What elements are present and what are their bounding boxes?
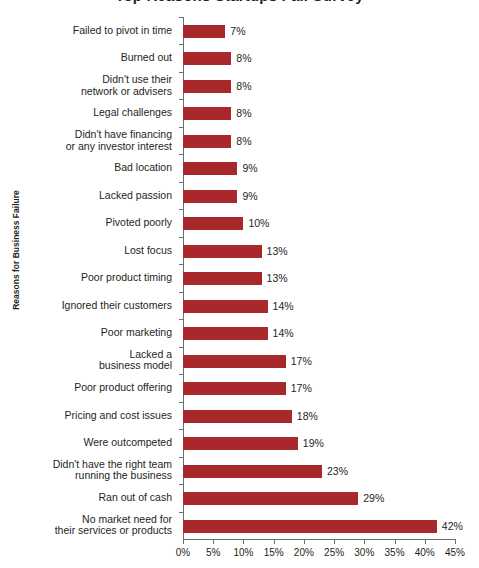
- y-axis-tick: [179, 402, 183, 403]
- bar-value-label: 17%: [291, 381, 312, 395]
- y-axis-tick: [179, 99, 183, 100]
- bar-value-label: 13%: [267, 271, 288, 285]
- x-axis-tick: [183, 539, 184, 544]
- bar-chart: Top Reasons Startups Fail Survey Reasons…: [0, 0, 479, 568]
- y-axis-tick: [179, 512, 183, 513]
- category-label: Burned out: [0, 52, 172, 64]
- y-axis-tick: [179, 429, 183, 430]
- y-axis-tick: [179, 237, 183, 238]
- y-axis-tick: [179, 347, 183, 348]
- category-label: Didn't have financing or any investor in…: [0, 129, 172, 152]
- category-label: Poor product offering: [0, 382, 172, 394]
- bar: [183, 25, 225, 38]
- bar-value-label: 17%: [291, 354, 312, 368]
- category-label: Poor marketing: [0, 327, 172, 339]
- bar: [183, 437, 298, 450]
- bar: [183, 410, 292, 423]
- bar: [183, 272, 262, 285]
- category-label: Didn't use their network or advisers: [0, 74, 172, 97]
- category-label: Didn't have the right team running the b…: [0, 459, 172, 482]
- y-axis-tick: [179, 182, 183, 183]
- x-axis-tick: [304, 539, 305, 544]
- y-axis-tick: [179, 264, 183, 265]
- y-axis-tick: [179, 17, 183, 18]
- bar-value-label: 10%: [248, 216, 269, 230]
- bar: [183, 162, 237, 175]
- bar: [183, 520, 437, 533]
- category-label: Lost focus: [0, 245, 172, 257]
- category-label: Poor product timing: [0, 272, 172, 284]
- bar: [183, 300, 268, 313]
- bar: [183, 107, 231, 120]
- x-axis-tick: [455, 539, 456, 544]
- y-axis-tick: [179, 374, 183, 375]
- bar-value-label: 8%: [236, 106, 251, 120]
- category-label: No market need for their services or pro…: [0, 514, 172, 537]
- bar: [183, 80, 231, 93]
- bar-value-label: 14%: [273, 326, 294, 340]
- y-axis-tick: [179, 44, 183, 45]
- bar: [183, 492, 358, 505]
- chart-title: Top Reasons Startups Fail Survey: [0, 0, 479, 7]
- x-axis-line: [183, 539, 455, 540]
- bar-value-label: 19%: [303, 436, 324, 450]
- bar: [183, 382, 286, 395]
- bar-value-label: 9%: [242, 161, 257, 175]
- x-axis-tick: [243, 539, 244, 544]
- bar-value-label: 18%: [297, 409, 318, 423]
- bar-value-label: 42%: [442, 519, 463, 533]
- category-label: Failed to pivot in time: [0, 25, 172, 37]
- bar-value-label: 23%: [327, 464, 348, 478]
- category-label: Lacked passion: [0, 190, 172, 202]
- category-label: Ignored their customers: [0, 300, 172, 312]
- bar: [183, 135, 231, 148]
- y-axis-tick: [179, 127, 183, 128]
- bar: [183, 355, 286, 368]
- category-label: Legal challenges: [0, 107, 172, 119]
- bar: [183, 245, 262, 258]
- bar-value-label: 9%: [242, 189, 257, 203]
- x-axis-tick: [364, 539, 365, 544]
- category-label: Bad location: [0, 162, 172, 174]
- y-axis-tick: [179, 154, 183, 155]
- x-axis-tick: [274, 539, 275, 544]
- category-label: Ran out of cash: [0, 492, 172, 504]
- bar: [183, 217, 243, 230]
- bar-value-label: 8%: [236, 51, 251, 65]
- bar-value-label: 29%: [363, 491, 384, 505]
- bar-value-label: 14%: [273, 299, 294, 313]
- category-label: Pricing and cost issues: [0, 410, 172, 422]
- y-axis-tick: [179, 319, 183, 320]
- bar: [183, 327, 268, 340]
- category-label: Pivoted poorly: [0, 217, 172, 229]
- y-axis-tick: [179, 72, 183, 73]
- x-axis-tick: [334, 539, 335, 544]
- y-axis-tick: [179, 292, 183, 293]
- bar-value-label: 13%: [267, 244, 288, 258]
- bar: [183, 52, 231, 65]
- bar-value-label: 8%: [236, 134, 251, 148]
- category-label: Lacked a business model: [0, 349, 172, 372]
- y-axis-tick-labels: Failed to pivot in timeBurned outDidn't …: [0, 17, 178, 539]
- x-axis-tick: [425, 539, 426, 544]
- plot-area: 7%8%8%8%8%9%9%10%13%13%14%14%17%17%18%19…: [183, 17, 455, 539]
- x-axis-tick-label: 45%: [435, 547, 475, 558]
- bar-value-label: 8%: [236, 79, 251, 93]
- y-axis-tick: [179, 484, 183, 485]
- x-axis-tick: [395, 539, 396, 544]
- y-axis-tick: [179, 457, 183, 458]
- bar: [183, 465, 322, 478]
- bar-value-label: 7%: [230, 24, 245, 38]
- bar: [183, 190, 237, 203]
- y-axis-tick: [179, 209, 183, 210]
- category-label: Were outcompeted: [0, 437, 172, 449]
- x-axis-tick: [213, 539, 214, 544]
